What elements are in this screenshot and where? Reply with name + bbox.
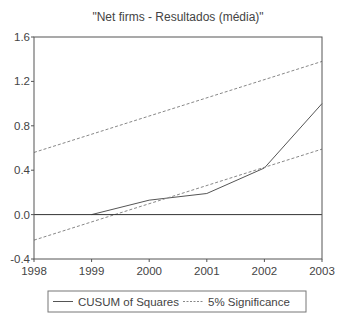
y-tick-label: 0.0 — [14, 209, 30, 221]
significance-band-line — [34, 61, 322, 152]
cusum-chart: "Net firms - Resultados (média)" -0.40.0… — [0, 0, 343, 326]
y-tick-label: 0.8 — [14, 120, 30, 132]
x-tick-label: 2003 — [309, 265, 335, 277]
y-tick-label: -0.4 — [10, 253, 30, 265]
significance-band-line — [34, 149, 322, 240]
x-tick-label: 2002 — [252, 265, 278, 277]
x-tick-label: 1998 — [21, 265, 47, 277]
legend-label-cusum: CUSUM of Squares — [78, 296, 179, 308]
legend: CUSUM of Squares 5% Significance — [48, 291, 306, 312]
cusum-line — [92, 104, 322, 215]
y-tick-label: 1.2 — [14, 75, 30, 87]
x-tick-label: 1999 — [79, 265, 105, 277]
x-tick-label: 2001 — [194, 265, 220, 277]
x-tick-label: 2000 — [136, 265, 162, 277]
y-tick-label: 0.4 — [14, 164, 31, 176]
plot-area: -0.40.00.40.81.21.6199819992000200120022… — [10, 31, 335, 277]
legend-label-significance: 5% Significance — [208, 296, 290, 308]
plot-frame — [34, 37, 322, 259]
chart-title: "Net firms - Resultados (média)" — [92, 10, 263, 24]
y-tick-label: 1.6 — [14, 31, 30, 43]
